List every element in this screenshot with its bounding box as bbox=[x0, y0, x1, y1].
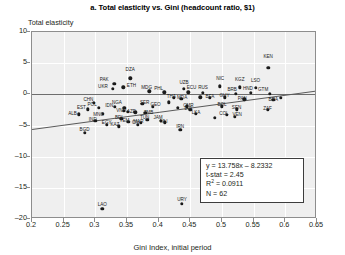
stats-r2: R2 = 0.0911 bbox=[206, 180, 303, 189]
data-point-label: LVA bbox=[184, 106, 192, 111]
data-point[interactable] bbox=[128, 76, 131, 79]
data-point-label: COL bbox=[219, 111, 228, 116]
x-tick-mark bbox=[126, 218, 127, 222]
data-point[interactable] bbox=[97, 106, 100, 109]
x-tick-mark bbox=[316, 218, 317, 222]
x-tick-mark bbox=[189, 218, 190, 222]
data-point-label: LAO bbox=[98, 202, 107, 207]
x-tick-mark bbox=[284, 218, 285, 222]
data-point-label: GEO bbox=[150, 102, 160, 107]
data-point[interactable] bbox=[83, 131, 86, 134]
data-point-label: GUY bbox=[220, 92, 230, 97]
x-tick-mark bbox=[158, 218, 159, 222]
y-tick-mark bbox=[26, 187, 30, 188]
stats-n: N = 62 bbox=[206, 190, 303, 199]
data-point[interactable] bbox=[101, 207, 104, 210]
data-point-label: BDI bbox=[115, 114, 123, 119]
data-point-label: BRB bbox=[227, 86, 236, 91]
data-point[interactable] bbox=[182, 87, 185, 90]
y-tick-mark bbox=[26, 156, 30, 157]
chart-title: a. Total elasticity vs. Gini (headcount … bbox=[0, 3, 345, 12]
data-point-label: MLI bbox=[160, 118, 168, 123]
data-point-label: IRN bbox=[176, 124, 184, 129]
y-tick-mark bbox=[26, 93, 30, 94]
data-point-label: SER bbox=[140, 99, 149, 104]
data-point-label: IDN bbox=[105, 102, 113, 107]
data-point-label: PAN bbox=[238, 96, 247, 101]
data-point-label: VEN bbox=[232, 112, 241, 117]
gridline-horizontal bbox=[32, 126, 315, 127]
data-point[interactable] bbox=[279, 96, 282, 99]
stats-equation: y = 13.758x – 8.2332 bbox=[206, 162, 303, 171]
data-point-label: PAK bbox=[100, 76, 109, 81]
data-point-label: URY bbox=[177, 197, 187, 202]
data-point-label: ZAF bbox=[263, 106, 272, 111]
data-point-label: KGZ bbox=[235, 77, 244, 82]
data-point-label: LKA bbox=[192, 109, 201, 114]
data-point-label: RUS bbox=[198, 85, 208, 90]
x-tick-mark bbox=[94, 218, 95, 222]
data-point-label: DZA bbox=[126, 67, 135, 72]
y-axis-title: Total elasticity bbox=[28, 18, 73, 27]
data-point[interactable] bbox=[77, 113, 80, 116]
data-point[interactable] bbox=[238, 86, 241, 89]
data-point-label: SEN bbox=[232, 105, 241, 110]
data-point[interactable] bbox=[213, 116, 216, 119]
data-point[interactable] bbox=[199, 96, 202, 99]
data-point-label: AZE bbox=[127, 108, 136, 113]
data-point[interactable] bbox=[86, 108, 89, 111]
gridline-vertical bbox=[190, 32, 191, 217]
y-tick-mark bbox=[26, 125, 30, 126]
gridline-vertical bbox=[127, 32, 128, 217]
data-point[interactable] bbox=[167, 101, 170, 104]
y-tick-mark bbox=[26, 218, 30, 219]
data-point-label: GTM bbox=[258, 86, 268, 91]
data-point-label: UKR bbox=[98, 84, 108, 89]
data-point-label: MDG bbox=[141, 85, 152, 90]
data-point[interactable] bbox=[113, 82, 116, 85]
y-tick-mark bbox=[26, 31, 30, 32]
data-point-label: MDA bbox=[177, 94, 187, 99]
data-point-label: KEN bbox=[263, 53, 272, 58]
data-point-label: ECU bbox=[187, 84, 197, 89]
x-tick-mark bbox=[221, 218, 222, 222]
data-point[interactable] bbox=[180, 202, 183, 205]
data-point[interactable] bbox=[178, 128, 181, 131]
gridline-horizontal bbox=[32, 63, 315, 64]
data-point-label: BRA bbox=[269, 96, 278, 101]
data-point[interactable] bbox=[111, 87, 114, 90]
y-tick-mark bbox=[26, 62, 30, 63]
data-point-label: LSO bbox=[251, 77, 260, 82]
data-point-label: EST bbox=[77, 105, 86, 110]
data-point-label: BGD bbox=[80, 127, 90, 132]
gridline-vertical bbox=[95, 32, 96, 217]
stats-r2-value: = 0.0911 bbox=[214, 180, 243, 188]
x-axis-title: Gini Index, initial period bbox=[0, 243, 345, 252]
data-point[interactable] bbox=[267, 66, 270, 69]
data-point-label: THA bbox=[167, 94, 176, 99]
regression-stats-box: y = 13.758x – 8.2332 t-stat = 2.45 R2 = … bbox=[200, 158, 304, 203]
chart-container: a. Total elasticity vs. Gini (headcount … bbox=[0, 0, 345, 255]
data-point-label: KAZ bbox=[110, 121, 119, 126]
data-point[interactable] bbox=[254, 86, 257, 89]
data-point[interactable] bbox=[147, 90, 150, 93]
data-point-label: CIV bbox=[132, 120, 140, 125]
data-point-label: PHL bbox=[154, 86, 163, 91]
data-point-label: CHN bbox=[83, 96, 93, 101]
data-point-label: BOL bbox=[217, 102, 226, 107]
x-tick-mark bbox=[253, 218, 254, 222]
data-point-label: POL bbox=[88, 102, 97, 107]
data-point-label: BFA bbox=[206, 94, 215, 99]
data-point[interactable] bbox=[121, 86, 124, 89]
data-point-label: ETH bbox=[127, 82, 136, 87]
data-point-label: ALB bbox=[68, 111, 77, 116]
x-tick-mark bbox=[63, 218, 64, 222]
data-point-label: HND bbox=[243, 86, 253, 91]
gridline-vertical bbox=[159, 32, 160, 217]
x-tick-mark bbox=[31, 218, 32, 222]
data-point-label: NIC bbox=[216, 76, 224, 81]
data-point-label: IND bbox=[89, 116, 97, 121]
